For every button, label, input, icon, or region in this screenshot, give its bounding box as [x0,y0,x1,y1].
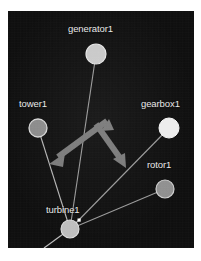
turbine1-selection-marker[interactable] [78,219,81,222]
node-rotor1[interactable] [156,180,174,198]
graph-svg [8,11,194,248]
edge-turbine1-gearbox1[interactable] [70,128,169,229]
node-gearbox1[interactable] [159,118,179,138]
node-turbine1[interactable] [61,220,79,238]
node-label-gearbox1: gearbox1 [141,99,180,109]
node-label-generator1: generator1 [68,24,113,34]
node-label-turbine1: turbine1 [46,205,80,215]
node-generator1[interactable] [86,44,106,64]
graph-canvas[interactable]: generator1 tower1 gearbox1 rotor1 turbin… [8,11,194,248]
arrow-down-right-icon [96,124,126,168]
node-label-rotor1: rotor1 [147,160,171,170]
annotation-arrow-layer [49,119,126,168]
arrow-down-left-icon [49,119,114,167]
node-tower1[interactable] [29,119,47,137]
edge-turbine1-rotor1[interactable] [70,189,165,229]
node-label-tower1: tower1 [19,99,47,109]
figure-container: generator1 tower1 gearbox1 rotor1 turbin… [0,0,201,261]
edge-layer [38,54,169,248]
